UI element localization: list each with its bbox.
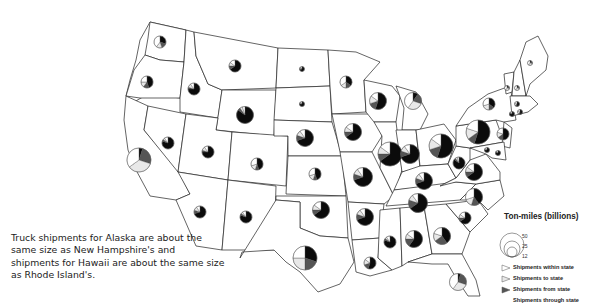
pie-wyoming <box>237 107 254 124</box>
pie-connecticut <box>510 112 515 117</box>
pie-rhode-island <box>518 110 523 115</box>
state-florida <box>408 254 480 296</box>
pie-florida <box>450 274 467 291</box>
pie-texas <box>293 246 317 270</box>
pie-new-york <box>483 98 495 110</box>
pie-new-jersey <box>497 128 509 140</box>
legend-circle-12 <box>507 247 517 257</box>
legend-swatch-within-icon <box>502 265 510 271</box>
legend-circle-25 <box>504 241 520 257</box>
pie-kansas <box>309 168 321 180</box>
pie-ohio <box>429 134 453 158</box>
pie-utah <box>202 146 214 158</box>
pie-new-hampshire <box>514 86 519 91</box>
pie-west-virginia <box>453 157 465 169</box>
pie-wisconsin <box>370 93 387 110</box>
pie-michigan <box>404 93 421 110</box>
pie-massachusetts <box>515 102 520 107</box>
pie-south-dakota <box>300 102 305 107</box>
pie-north-dakota <box>300 67 305 72</box>
pie-arizona <box>194 206 206 218</box>
pie-delaware <box>496 151 501 156</box>
pie-colorado <box>251 158 263 170</box>
pie-oklahoma <box>313 202 330 219</box>
pie-montana <box>229 60 241 72</box>
pie-slice-through <box>520 110 523 115</box>
pie-south-carolina <box>459 212 471 224</box>
pie-mississippi <box>384 236 396 248</box>
pie-california <box>127 148 151 172</box>
pie-louisiana <box>364 257 376 269</box>
legend-swatch-to-icon <box>502 276 510 282</box>
pie-virginia <box>466 164 483 181</box>
legend-item-within: Shipments within state <box>513 264 574 270</box>
pie-oregon <box>141 76 153 88</box>
pie-arkansas <box>357 209 374 226</box>
pie-new-mexico <box>240 211 252 223</box>
pie-nevada <box>162 137 174 149</box>
pie-washington <box>154 36 166 48</box>
state-oregon <box>126 55 184 98</box>
pie-illinois <box>378 142 402 166</box>
pie-indiana <box>401 145 420 164</box>
pie-georgia <box>434 228 451 245</box>
legend-swatch-from-icon <box>502 287 510 293</box>
state-maine <box>520 36 548 96</box>
legend-circle-50 <box>500 233 524 257</box>
legend-item-through: Shipments through state <box>513 297 579 303</box>
map-caption: Truck shipments for Alaska are about the… <box>11 232 226 282</box>
pie-minnesota <box>340 76 352 88</box>
legend-size-25: 25 <box>522 243 528 249</box>
pie-missouri <box>354 167 373 186</box>
pie-nebraska <box>297 130 314 147</box>
pie-vermont <box>505 86 510 91</box>
pie-maryland <box>485 148 490 153</box>
pie-alabama <box>406 231 423 248</box>
pie-idaho <box>188 83 200 95</box>
legend-item-from: Shipments from state <box>513 286 570 292</box>
legend-item-to: Shipments to state <box>513 275 563 281</box>
pie-kentucky <box>415 173 432 190</box>
pie-tennessee <box>409 194 428 213</box>
legend-size-12: 12 <box>522 253 528 259</box>
pie-maine <box>528 61 533 66</box>
pie-pennsylvania <box>466 120 490 144</box>
pie-north-carolina <box>466 188 483 205</box>
legend-title: Ton-miles (billions) <box>504 212 578 221</box>
legend-size-50: 50 <box>522 233 528 239</box>
pie-iowa <box>345 124 362 141</box>
